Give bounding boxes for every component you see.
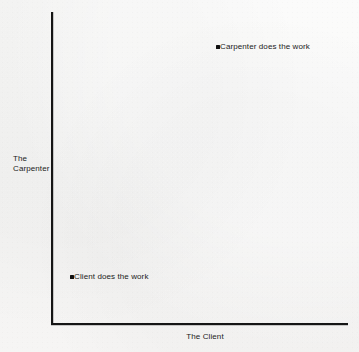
y-axis-title-line-1: The [13, 154, 51, 164]
data-point-label: Carpenter does the work [220, 41, 310, 52]
x-axis-title: The Client [150, 332, 260, 342]
scatter-chart-figure: The Carpenter The Client Carpenter does … [0, 0, 359, 352]
data-point-label: Client does the work [74, 271, 148, 282]
x-axis-line [51, 323, 348, 325]
y-axis-line [51, 12, 53, 325]
paper-grain-texture [0, 0, 359, 352]
y-axis-title: The Carpenter [13, 154, 51, 174]
y-axis-title-line-2: Carpenter [13, 164, 51, 174]
